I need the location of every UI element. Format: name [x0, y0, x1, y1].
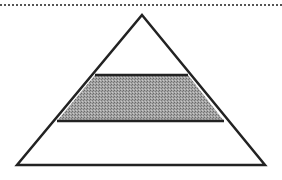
pyramid-bottom-level: [17, 121, 265, 165]
pyramid-diagram: [0, 0, 282, 180]
pyramid-top-level: [95, 15, 188, 75]
pyramid-middle-level: [57, 75, 224, 121]
